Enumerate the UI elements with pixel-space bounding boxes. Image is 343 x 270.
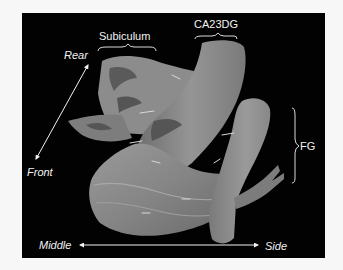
subiculum-label: Subiculum	[99, 30, 150, 42]
fg-label: FG	[300, 140, 315, 152]
middle-label: Middle	[39, 239, 71, 251]
ca23dg-label: CA23DG	[194, 18, 238, 30]
rear-label: Rear	[64, 49, 88, 61]
figure-panel: Subiculum CA23DG FG Rear Front Middle Si…	[22, 13, 325, 258]
front-label: Front	[27, 166, 53, 178]
side-label: Side	[265, 240, 287, 252]
